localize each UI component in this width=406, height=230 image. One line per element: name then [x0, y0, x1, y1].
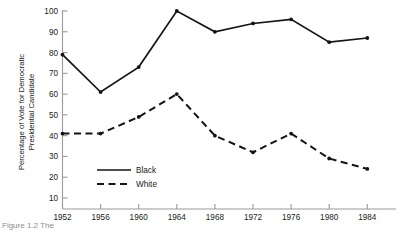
- line-chart-svg: 102030405060708090100 195219561960196419…: [0, 0, 406, 230]
- data-point: [137, 65, 141, 69]
- legend-label-black: Black: [136, 166, 157, 175]
- data-point: [327, 157, 331, 161]
- x-tick-label: 1964: [168, 213, 187, 222]
- y-tick-label: 60: [49, 90, 59, 99]
- data-point: [365, 36, 369, 40]
- x-tick-label: 1972: [244, 213, 263, 222]
- data-point: [175, 92, 179, 96]
- chart-background: [0, 0, 406, 230]
- data-point: [289, 17, 293, 21]
- data-point: [213, 134, 217, 138]
- y-axis-title-line2: Presidential Candidate: [27, 74, 36, 150]
- data-point: [137, 115, 141, 119]
- figure-caption: Figure 1.2 The: [2, 221, 54, 230]
- data-point: [365, 167, 369, 171]
- data-point: [213, 30, 217, 34]
- y-tick-label: 80: [49, 49, 59, 58]
- data-point: [251, 22, 255, 26]
- data-point: [289, 132, 293, 136]
- data-point: [251, 150, 255, 154]
- y-tick-label: 30: [49, 152, 59, 161]
- x-tick-label: 1976: [282, 213, 301, 222]
- y-axis-title-line1: Percentage of Vote for Democratic: [17, 54, 26, 170]
- data-point: [99, 90, 103, 94]
- y-tick-label: 70: [49, 69, 59, 78]
- y-tick-label: 40: [49, 132, 59, 141]
- chart-figure: 102030405060708090100 195219561960196419…: [0, 0, 406, 230]
- data-point: [99, 132, 103, 136]
- x-tick-label: 1952: [53, 213, 72, 222]
- y-tick-label: 10: [49, 194, 59, 203]
- x-tick-label: 1980: [320, 213, 339, 222]
- y-tick-label: 90: [49, 28, 59, 37]
- y-tick-label: 100: [44, 7, 58, 16]
- x-tick-label: 1956: [91, 213, 110, 222]
- x-tick-label: 1960: [130, 213, 149, 222]
- data-point: [327, 40, 331, 44]
- y-tick-label: 20: [49, 173, 59, 182]
- legend-label-white: White: [136, 180, 157, 189]
- data-point: [61, 53, 65, 57]
- y-tick-label: 50: [49, 111, 59, 120]
- data-point: [175, 9, 179, 13]
- x-tick-label: 1968: [206, 213, 225, 222]
- x-tick-label: 1984: [358, 213, 377, 222]
- data-point: [61, 132, 65, 136]
